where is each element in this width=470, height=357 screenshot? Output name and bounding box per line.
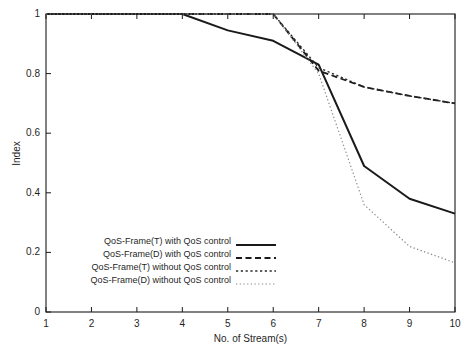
x-tick-label: 3	[117, 318, 157, 329]
chart-legend: QoS-Frame(T) with QoS controlQoS-Frame(D…	[64, 234, 276, 286]
legend-item-label: QoS-Frame(D) with QoS control	[103, 249, 231, 259]
y-tick-label: 0	[4, 306, 40, 317]
legend-item-label: QoS-Frame(D) without QoS control	[90, 275, 231, 285]
legend-line-sample	[236, 275, 276, 285]
x-tick-label: 9	[390, 318, 430, 329]
legend-item: QoS-Frame(D) with QoS control	[64, 247, 276, 260]
y-axis-label: Index	[11, 124, 22, 184]
chart-figure: 00.20.40.60.81 12345678910 Index No. of …	[0, 0, 470, 357]
legend-item: QoS-Frame(D) without QoS control	[64, 273, 276, 286]
plot-canvas	[0, 0, 470, 357]
y-tick-label: 0.4	[4, 187, 40, 198]
legend-line-sample	[236, 249, 276, 259]
legend-line-sample	[236, 262, 276, 272]
legend-item-label: QoS-Frame(T) without QoS control	[91, 262, 231, 272]
y-tick-label: 0.8	[4, 68, 40, 79]
x-tick-label: 5	[208, 318, 248, 329]
y-tick-label: 0.2	[4, 246, 40, 257]
x-axis-label: No. of Stream(s)	[46, 333, 455, 344]
legend-line-sample	[236, 236, 276, 246]
x-tick-label: 10	[435, 318, 470, 329]
x-tick-label: 7	[299, 318, 339, 329]
legend-item: QoS-Frame(T) with QoS control	[64, 234, 276, 247]
x-tick-label: 6	[253, 318, 293, 329]
y-tick-label: 1	[4, 8, 40, 19]
y-tick-label: 0.6	[4, 127, 40, 138]
legend-item-label: QoS-Frame(T) with QoS control	[104, 236, 231, 246]
x-tick-label: 2	[71, 318, 111, 329]
legend-item: QoS-Frame(T) without QoS control	[64, 260, 276, 273]
x-tick-label: 4	[162, 318, 202, 329]
x-tick-label: 1	[26, 318, 66, 329]
x-tick-label: 8	[344, 318, 384, 329]
